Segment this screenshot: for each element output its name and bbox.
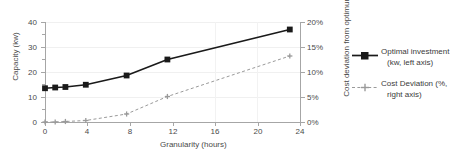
data-point-cost-deviation xyxy=(124,111,129,116)
data-point-cost-deviation xyxy=(83,118,88,123)
data-point-cost-deviation xyxy=(63,119,68,124)
data-point-optimal-investment xyxy=(52,85,58,91)
data-point-cost-deviation xyxy=(287,53,292,58)
data-point-cost-deviation xyxy=(165,94,170,99)
data-point-cost-deviation xyxy=(53,119,58,124)
legend-label-optimal-investment-line2: (kw, left axis) xyxy=(387,57,462,68)
legend-entry-cost-deviation: Cost Deviation (%, right axis) xyxy=(352,78,462,100)
legend-marker-square-solid-icon xyxy=(352,50,378,61)
data-point-optimal-investment xyxy=(124,73,130,79)
legend-marker-cross-dashed-icon xyxy=(352,82,378,93)
legend-label-cost-deviation-line1: Cost Deviation (%, xyxy=(381,78,462,89)
data-point-cost-deviation xyxy=(42,119,47,124)
legend-label-optimal-investment-line1: Optimal investment xyxy=(381,46,462,57)
series-line-cost-deviation xyxy=(45,56,290,122)
chart-container: 40 30 20 10 0 20% 15% 10% 5% 0% 0 4 8 12… xyxy=(0,0,462,157)
data-point-optimal-investment xyxy=(83,82,89,88)
legend-entry-optimal-investment: Optimal investment (kw, left axis) xyxy=(352,46,462,68)
data-point-optimal-investment xyxy=(63,84,69,90)
legend-label-cost-deviation-line2: right axis) xyxy=(387,89,462,100)
legend: Optimal investment (kw, left axis) Cost … xyxy=(352,46,462,110)
data-point-optimal-investment xyxy=(165,57,171,63)
series-markers-optimal-investment xyxy=(42,27,293,92)
series-markers-cost-deviation xyxy=(42,53,292,124)
data-point-optimal-investment xyxy=(287,27,293,33)
data-point-optimal-investment xyxy=(42,85,48,91)
